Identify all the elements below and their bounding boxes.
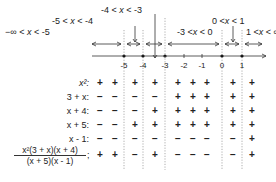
- sign-cell: +: [230, 92, 236, 102]
- tick-label: 1: [240, 61, 244, 70]
- sign-cell: −: [112, 120, 118, 130]
- sign-cell: −: [112, 92, 118, 102]
- sign-cell: −: [152, 134, 158, 144]
- sign-cell: −: [230, 134, 236, 144]
- sign-cell: −: [152, 92, 158, 102]
- sign-cell: +: [249, 78, 255, 88]
- sign-cell: +: [249, 106, 255, 116]
- sign-cell: +: [175, 78, 181, 88]
- sign-cell: +: [230, 120, 236, 130]
- tick-label: -4: [139, 61, 146, 70]
- sign-cell: −: [132, 134, 138, 144]
- sign-cell: +: [204, 92, 210, 102]
- sign-cell: −: [97, 106, 103, 116]
- result-fraction-label: x²(3 + x)(x + 4) (x + 5)(x - 1): [14, 145, 86, 166]
- interval-label-1-to-inf: 1 <x < ∞: [246, 27, 276, 37]
- sign-cell: +: [249, 120, 255, 130]
- sign-cell: +: [190, 92, 196, 102]
- sign-cell: +: [190, 120, 196, 130]
- interval-label-neg5-to-neg4: -5 < x < -4: [52, 16, 93, 26]
- fraction-numerator: x²(3 + x)(x + 4): [14, 145, 86, 156]
- sign-cell: +: [175, 106, 181, 116]
- sign-cell: +: [230, 106, 236, 116]
- sign-cell: −: [132, 92, 138, 102]
- sign-cell: +: [249, 150, 255, 160]
- sign-cell: +: [132, 120, 138, 130]
- tick-label: -2: [180, 61, 187, 70]
- sign-cell: −: [175, 150, 181, 160]
- interval-label-neg-inf-to-neg5: −∞ < x < -5: [5, 27, 50, 37]
- sign-cell: +: [190, 78, 196, 88]
- sign-cell: +: [230, 78, 236, 88]
- sign-cell: +: [190, 106, 196, 116]
- interval-label-neg3-to-0: -3 <x < 0: [177, 27, 213, 37]
- sign-cell: −: [112, 106, 118, 116]
- sign-cell: +: [204, 78, 210, 88]
- sign-cell: +: [204, 106, 210, 116]
- sign-cell: −: [230, 150, 236, 160]
- sign-cell: −: [112, 134, 118, 144]
- sign-cell: +: [152, 120, 158, 130]
- tick-label: -3: [161, 61, 168, 70]
- sign-cell: +: [152, 78, 158, 88]
- interval-label-0-to-1: 0 <x < 1: [212, 16, 245, 26]
- fraction-denominator: (x + 5)(x - 1): [14, 156, 86, 166]
- tick-label: -1: [198, 61, 205, 70]
- sign-cell: −: [190, 150, 196, 160]
- tick-label: -5: [120, 61, 127, 70]
- sign-cell: −: [97, 134, 103, 144]
- sign-cell: +: [97, 78, 103, 88]
- result-colon: ;: [87, 150, 90, 160]
- sign-cell: −: [175, 134, 181, 144]
- sign-cell: −: [132, 106, 138, 116]
- sign-cell: +: [97, 150, 103, 160]
- interval-label-neg4-to-neg3: -4 < x < -3: [101, 5, 142, 15]
- sign-cell: +: [152, 106, 158, 116]
- sign-cell: +: [112, 78, 118, 88]
- sign-cell: +: [204, 120, 210, 130]
- sign-cell: +: [249, 92, 255, 102]
- sign-cell: +: [175, 92, 181, 102]
- sign-cell: −: [204, 150, 210, 160]
- sign-cell: −: [97, 120, 103, 130]
- tick-label: 0: [220, 61, 224, 70]
- sign-cell: +: [132, 78, 138, 88]
- sign-cell: −: [132, 150, 138, 160]
- sign-cell: +: [152, 150, 158, 160]
- sign-cell: −: [97, 92, 103, 102]
- sign-cell: +: [249, 134, 255, 144]
- sign-cell: +: [175, 120, 181, 130]
- sign-cell: +: [112, 150, 118, 160]
- sign-cell: −: [204, 134, 210, 144]
- sign-cell: −: [190, 134, 196, 144]
